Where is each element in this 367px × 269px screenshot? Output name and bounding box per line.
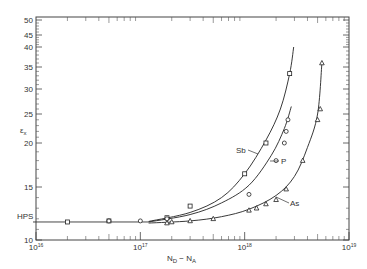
sb-curve — [149, 47, 294, 221]
svg-text:Sb: Sb — [236, 146, 246, 155]
y-tick-label: 40 — [24, 43, 33, 52]
x-tick-label: 1016 — [29, 242, 44, 252]
data-curves — [33, 47, 322, 223]
y-tick-label: 20 — [24, 139, 33, 148]
sb-curve-label: Sb — [236, 146, 258, 155]
y-tick-label: 45 — [24, 31, 33, 40]
as-data-point — [320, 61, 325, 65]
x-tick-label: 1019 — [342, 242, 357, 252]
data-markers — [65, 61, 324, 225]
p-data-point — [138, 219, 142, 223]
as-data-point — [315, 117, 320, 121]
y-axis-label: εx — [20, 126, 27, 136]
as-data-point — [300, 158, 305, 162]
y-tick-label: 25 — [24, 110, 33, 119]
hps-label: HPS — [17, 212, 33, 221]
p-data-point — [286, 118, 290, 122]
p-data-point — [284, 129, 288, 133]
x-tick-label: 1018 — [237, 242, 252, 252]
p-curve — [149, 107, 292, 222]
p-data-point — [282, 141, 286, 145]
p-data-point — [247, 192, 251, 196]
x-axis-label: ND − NA — [167, 254, 196, 264]
x-tick-label: 1017 — [133, 242, 148, 252]
y-tick-label: 15 — [24, 183, 33, 192]
svg-text:P: P — [281, 157, 286, 166]
sb-data-point — [65, 220, 69, 224]
y-tick-label: 50 — [24, 16, 33, 25]
x-axis-tick-labels: 1016101710181019 — [29, 242, 357, 252]
sb-data-point — [264, 141, 268, 145]
p-data-point — [274, 159, 278, 163]
y-tick-label: 30 — [24, 85, 33, 94]
sb-data-point — [288, 72, 292, 76]
sb-data-point — [243, 172, 247, 176]
svg-text:As: As — [290, 199, 299, 208]
as-curve-label: As — [276, 197, 299, 208]
sb-data-point — [188, 204, 192, 208]
as-data-point — [254, 206, 259, 210]
dielectric-constant-chart: 101520253035404550 1016101710181019 εx N… — [0, 0, 367, 269]
p-data-point — [107, 219, 111, 223]
y-tick-label: 35 — [24, 63, 33, 72]
